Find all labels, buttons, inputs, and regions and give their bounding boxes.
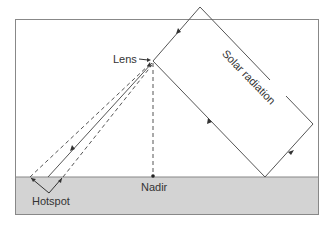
hotspot-label: Hotspot (32, 196, 70, 207)
lens-label: Lens (113, 54, 137, 65)
hotspot-diagram (0, 0, 335, 226)
nadir-label: Nadir (141, 182, 167, 193)
nadir-point (151, 174, 155, 178)
